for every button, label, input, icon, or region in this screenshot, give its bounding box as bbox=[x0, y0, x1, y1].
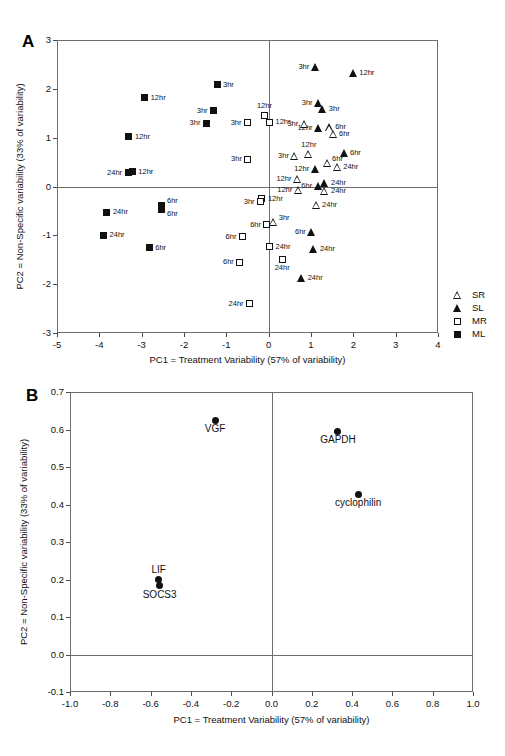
x-tick bbox=[226, 333, 227, 337]
marker-open-square bbox=[239, 233, 246, 240]
x-tick bbox=[392, 692, 393, 696]
x-tick bbox=[352, 692, 353, 696]
marker-open-triangle bbox=[333, 163, 341, 171]
x-tick bbox=[473, 692, 474, 696]
data-point-label: 6hr bbox=[332, 155, 343, 163]
data-point-label: 3hr bbox=[278, 152, 289, 160]
data-point-label: 12hr bbox=[294, 165, 309, 173]
y-tick bbox=[53, 333, 57, 334]
data-point-label: 24hr bbox=[275, 264, 290, 272]
panel-a-x-axis-title: PC1 = Treatment Variability (57% of vari… bbox=[57, 354, 438, 365]
legend-symbol-filled-triangle bbox=[452, 303, 462, 313]
data-point-label: 6hr bbox=[167, 197, 178, 205]
x-tick bbox=[99, 333, 100, 337]
data-point-label: 24hr bbox=[343, 163, 358, 171]
x-tick bbox=[184, 333, 185, 337]
panel-a-y-axis-title: PC2 = Non-Specific variability (33% of v… bbox=[14, 40, 25, 333]
marker-open-triangle bbox=[290, 152, 298, 160]
data-point-label: 12hr bbox=[301, 141, 316, 149]
y-tick bbox=[66, 392, 70, 393]
marker-filled-square bbox=[141, 94, 148, 101]
data-point-label: cyclophilin bbox=[335, 499, 381, 507]
marker-filled-triangle bbox=[309, 245, 317, 253]
y-tick bbox=[66, 542, 70, 543]
x-tick bbox=[110, 692, 111, 696]
x-tick bbox=[311, 333, 312, 337]
x-tick-label: -0.6 bbox=[131, 698, 171, 709]
data-point-label: 3hr bbox=[244, 198, 255, 206]
marker-open-triangle bbox=[294, 186, 302, 194]
marker-filled-triangle bbox=[297, 274, 305, 282]
x-tick-label: 0.6 bbox=[372, 698, 412, 709]
marker-open-triangle bbox=[269, 218, 277, 226]
marker-filled-square bbox=[129, 168, 136, 175]
x-tick bbox=[272, 692, 273, 696]
data-point-label: 3hr bbox=[329, 105, 340, 113]
marker-open-square bbox=[246, 300, 253, 307]
x-tick-label: 0.2 bbox=[292, 698, 332, 709]
legend-symbol-open-square bbox=[452, 316, 462, 326]
data-point-label: 6hr bbox=[226, 233, 237, 241]
marker-filled-triangle bbox=[311, 165, 319, 173]
marker-open-square bbox=[244, 156, 251, 163]
x-tick-label: -1.0 bbox=[50, 698, 90, 709]
x-tick-label: -0.4 bbox=[171, 698, 211, 709]
x-tick-label: 0.0 bbox=[252, 698, 292, 709]
x-tick bbox=[438, 333, 439, 337]
x-tick bbox=[57, 333, 58, 337]
data-point-label: 6hr bbox=[223, 258, 234, 266]
pca-figure: A -5-4-3-2-1012343210-1-2-3 3hr12hr3hr3h… bbox=[0, 0, 505, 756]
marker-filled-square bbox=[158, 206, 165, 213]
marker-open-square bbox=[236, 259, 243, 266]
data-point-label: 3hr bbox=[231, 119, 242, 127]
data-point-label: GAPDH bbox=[320, 436, 356, 444]
data-point-label: 24hr bbox=[308, 274, 323, 282]
data-point-label: 6hr bbox=[295, 228, 306, 236]
legend-symbol-open-triangle bbox=[452, 290, 462, 300]
data-point-label: 3hr bbox=[223, 81, 234, 89]
legend-label: ML bbox=[472, 328, 485, 339]
data-point-label: 6hr bbox=[339, 130, 350, 138]
marker-filled-square bbox=[203, 120, 210, 127]
marker-open-square bbox=[257, 198, 264, 205]
marker-filled-triangle bbox=[314, 124, 322, 132]
marker-open-triangle bbox=[329, 130, 337, 138]
x-tick-label: 4 bbox=[418, 339, 458, 350]
data-point-label: 6hr bbox=[155, 244, 166, 252]
marker-open-square bbox=[279, 256, 286, 263]
marker-open-square bbox=[244, 119, 251, 126]
marker-filled-square bbox=[100, 232, 107, 239]
legend-label: SL bbox=[472, 302, 484, 313]
legend-label: SR bbox=[472, 289, 485, 300]
x-tick-label: 1 bbox=[291, 339, 331, 350]
data-point-label: 24hr bbox=[107, 169, 122, 177]
panel-b: B -1.0-0.8-0.6-0.4-0.20.00.20.40.60.81.0… bbox=[0, 376, 505, 756]
marker-filled-triangle bbox=[311, 63, 319, 71]
x-tick-label: -5 bbox=[37, 339, 77, 350]
marker-open-triangle bbox=[304, 150, 312, 158]
data-point-label: 6hr bbox=[250, 221, 261, 229]
x-tick-label: -2 bbox=[164, 339, 204, 350]
data-point-label: 24hr bbox=[229, 300, 244, 308]
marker-filled-triangle bbox=[453, 304, 461, 312]
x-tick-label: -1 bbox=[206, 339, 246, 350]
marker-open-triangle bbox=[312, 201, 320, 209]
data-point-label: 12hr bbox=[268, 195, 283, 203]
marker-open-triangle bbox=[453, 291, 461, 299]
x-tick-label: 3 bbox=[376, 339, 416, 350]
data-point-label: 24hr bbox=[320, 245, 335, 253]
data-point-label: 6hr bbox=[301, 182, 312, 190]
data-point-label: 24hr bbox=[276, 243, 291, 251]
legend-symbol-filled-square bbox=[452, 329, 462, 339]
y-tick bbox=[66, 505, 70, 506]
marker-open-triangle bbox=[323, 159, 331, 167]
y-tick bbox=[66, 467, 70, 468]
x-tick-label: 0 bbox=[249, 339, 289, 350]
marker-open-triangle bbox=[320, 187, 328, 195]
marker-open-triangle bbox=[300, 120, 308, 128]
marker-open-square bbox=[454, 318, 461, 325]
data-point-label: 12hr bbox=[277, 186, 292, 194]
data-point-label: 12hr bbox=[135, 133, 150, 141]
x-tick-label: 2 bbox=[333, 339, 373, 350]
marker-filled-square bbox=[454, 331, 461, 338]
